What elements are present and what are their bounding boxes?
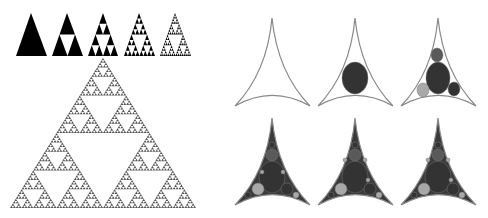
gasket-circle [349, 149, 361, 161]
gasket-circle [335, 183, 347, 195]
gasket-circle [269, 142, 275, 148]
gasket-circle [426, 158, 430, 162]
gasket-circle [447, 183, 459, 195]
gasket-circle [376, 192, 382, 198]
gasket-circle [328, 192, 334, 198]
gasket-circle [411, 192, 417, 198]
gasket-circle [352, 142, 358, 148]
gasket-circle [245, 192, 251, 198]
gasket-circle [432, 149, 444, 161]
gasket-circle [431, 48, 443, 62]
gasket-circle [260, 170, 264, 174]
gasket-circle [366, 178, 370, 182]
gasket-circle [418, 183, 430, 195]
gasket-circle [446, 158, 450, 162]
gasket-circle [417, 83, 429, 97]
gasket-circle [459, 192, 465, 198]
gasket-circle [435, 142, 441, 148]
gasket-circle [281, 183, 293, 195]
gasket-circle [293, 192, 299, 198]
gasket-circle [363, 158, 367, 162]
gasket-circle [449, 178, 453, 182]
gasket-circle [266, 149, 278, 161]
gasket-circle [252, 183, 264, 195]
gasket-circle [342, 62, 368, 94]
gasket-circle [364, 183, 376, 195]
gasket-circle [343, 158, 347, 162]
gasket-circle [448, 82, 460, 96]
gasket-circle [281, 170, 285, 174]
figure-canvas [0, 0, 488, 218]
gasket-circle [426, 62, 450, 94]
